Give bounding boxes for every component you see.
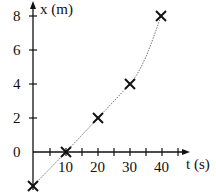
x-tick-label: 10 — [58, 159, 73, 175]
y-axis-title: x (m) — [40, 1, 73, 18]
marker-x-icon — [125, 79, 135, 89]
y-axis-arrow-icon — [30, 1, 36, 9]
x-axis-arrow-icon — [182, 149, 190, 155]
marker-x-icon — [93, 113, 103, 123]
y-tick-label: 6 — [13, 42, 21, 58]
x-tick-label: 20 — [90, 159, 105, 175]
x-tick-label: 40 — [154, 159, 169, 175]
x-axis-title: t (s) — [186, 156, 210, 173]
x-tick-label: 30 — [122, 159, 137, 175]
y-tick-label: 8 — [13, 8, 21, 24]
y-tick-label: 0 — [13, 144, 21, 160]
y-tick-label: 2 — [13, 110, 21, 126]
position-time-chart: 8 6 4 2 0 10 20 30 40 x (m) t (s) — [0, 0, 216, 196]
y-tick-label: 4 — [13, 76, 21, 92]
marker-x-icon — [156, 11, 166, 21]
